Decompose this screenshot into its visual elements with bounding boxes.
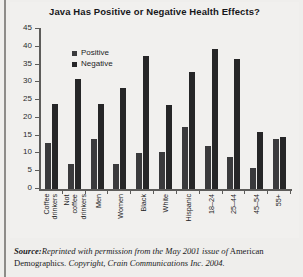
bar-group [177,29,200,189]
x-axis-label: Coffee drinkers [43,194,60,220]
bar-negative [98,104,104,189]
x-axis-label: White [162,194,170,212]
x-axis-label-cell: 45–54 [246,194,269,238]
y-axis-tick-label: 40 [23,42,32,50]
bar-group [40,29,63,189]
bar-negative [234,59,240,189]
bar-group [200,29,223,189]
bar-positive [45,143,51,189]
x-axis-label-cell: Women [110,194,133,238]
x-axis-label: 45–54 [253,194,261,214]
bar-group [131,29,154,189]
x-axis-label-cell: Not coffee drinkers [63,194,88,238]
x-axis-label: 18–24 [208,194,216,214]
x-axis-label-cell: Coffee drinkers [40,194,63,238]
y-axis-tick-label: 25 [23,95,32,103]
bar-negative [75,79,81,189]
bar-group [245,29,268,189]
chart-title: Java Has Positive or Negative Health Eff… [10,6,299,17]
bar-negative [52,104,58,189]
x-axis-label: 55+ [275,194,283,206]
bar-positive [182,127,188,189]
x-axis-label-cell: 25–44 [223,194,246,238]
bar-group [63,29,86,189]
bar-positive [273,139,279,189]
x-axis-label: Not coffee drinkers [63,194,88,220]
y-axis-tick-label: 30 [23,77,32,85]
bar-group [108,29,131,189]
bar-positive [68,164,74,189]
source-line2-roman: Demographics. [14,258,66,268]
bar-positive [205,146,211,189]
y-axis-tick-label: 45 [23,24,32,32]
bar-group [154,29,177,189]
source-label: Source: [14,246,42,256]
source-line1: Reprinted with permission from the May 2… [42,246,228,256]
page-left-rule [4,0,6,277]
source-line1-roman: American [228,246,264,256]
x-axis-label: 25–44 [230,194,238,214]
bar-positive [91,139,97,189]
bar-negative [212,49,218,189]
x-axis-label-cell: Men [87,194,110,238]
x-axis-label-cell: White [155,194,178,238]
bar-negative [120,88,126,189]
x-axis-label-cell: 18–24 [201,194,224,238]
chart-container: Java Has Positive or Negative Health Eff… [10,2,299,238]
bar-negative [257,132,263,189]
y-axis-tick-label: 10 [23,148,32,156]
source-caption: Source:Reprinted with permission from th… [14,246,292,269]
bar-groups [40,29,291,189]
x-axis-labels: Coffee drinkersNot coffee drinkersMenWom… [40,194,291,238]
y-axis-tick-label: 35 [23,60,32,68]
x-axis-label-cell: 55+ [268,194,291,238]
y-axis-tick-label: 0 [28,184,32,192]
y-axis-tick-label: 20 [23,113,32,121]
bar-positive [159,152,165,189]
bar-negative [166,105,172,189]
x-axis-label: Men [95,194,103,208]
bar-positive [136,153,142,189]
bar-negative [280,137,286,189]
bar-positive [250,168,256,189]
bar-negative [189,72,195,189]
x-axis-label-cell: Black [133,194,156,238]
bar-positive [227,157,233,189]
figure-page: Java Has Positive or Negative Health Eff… [0,0,303,277]
bar-positive [113,164,119,189]
source-line2-italic: Copyright, Crain Communications Inc. 200… [66,258,225,268]
x-axis-label: Women [117,194,125,219]
bar-group [86,29,109,189]
bar-group [268,29,291,189]
y-axis-tick-label: 5 [28,166,32,174]
x-axis-label: Hispanic [185,194,193,222]
x-axis-label: Black [140,194,148,212]
bar-group [223,29,246,189]
y-axis-tick-label: 15 [23,131,32,139]
bar-negative [143,56,149,189]
x-axis-label-cell: Hispanic [178,194,201,238]
